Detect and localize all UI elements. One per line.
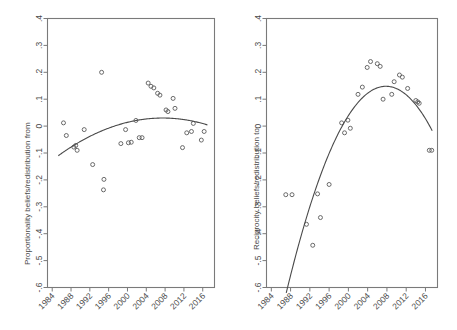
x-tick-label: 2000 [332,291,353,312]
y-tick-label: -.1 [34,148,44,158]
x-tick-label: 2004 [130,291,151,312]
x-tick-label: 1984 [36,291,57,312]
x-tick-label: 1992 [294,291,315,312]
x-tick-label: 1996 [93,291,114,312]
panel-right-svg: Reciprocity beliefs/redistribution to .4… [229,0,457,330]
y-tick-label: 0 [34,123,44,128]
y-axis-title-left: Proportionality beliefs/redistribution f… [23,122,32,265]
data-point [316,192,320,196]
panel-left: Proportionality beliefs/redistribution f… [0,0,228,330]
data-point [348,126,352,130]
y-tick-label: -.6 [253,282,263,292]
panel-left-x-axis: 198419881992199620002004200820122016 [36,288,207,312]
data-point [202,129,206,133]
data-point [129,140,133,144]
x-tick-label: 2012 [390,291,411,312]
y-tick-label: .4 [253,15,263,22]
data-point [61,121,65,125]
y-tick-label: -.5 [253,255,263,265]
plot-frame-left [48,19,215,288]
figure-canvas: Proportionality beliefs/redistribution f… [0,0,457,330]
data-point [318,216,322,220]
y-tick-label: -.6 [34,282,44,292]
y-tick-label: .4 [34,15,44,22]
x-tick-label: 2000 [111,291,132,312]
data-point [365,65,369,69]
data-point [311,243,315,247]
x-tick-label: 2008 [371,291,392,312]
x-tick-label: 1988 [55,291,76,312]
y-tick-label: .3 [34,42,44,49]
data-point [181,146,185,150]
data-point [189,129,193,133]
data-point [124,128,128,132]
data-point [100,70,104,74]
x-tick-label: 2016 [187,291,208,312]
panel-right: Reciprocity beliefs/redistribution to .4… [229,0,457,330]
panel-left-axis-title: Proportionality beliefs/redistribution f… [23,122,32,265]
fit-curve-right [286,86,432,293]
y-tick-label: -.3 [34,202,44,212]
x-tick-label: 2016 [409,291,430,312]
data-point [378,64,382,68]
data-point [199,138,203,142]
data-point [185,131,189,135]
panel-left-svg: Proportionality beliefs/redistribution f… [0,0,228,330]
y-tick-label: -.5 [34,255,44,265]
y-tick-label: -.2 [253,175,263,185]
y-tick-label: -.1 [253,148,263,158]
scatter-points-left [61,70,206,192]
y-tick-label: .2 [253,68,263,75]
data-point [82,128,86,132]
data-point [75,148,79,152]
data-point [171,96,175,100]
x-tick-label: 2004 [352,291,373,312]
x-tick-label: 1988 [275,291,296,312]
data-point [119,142,123,146]
data-point [91,163,95,167]
y-tick-label: -.3 [253,202,263,212]
data-point [140,136,144,140]
x-tick-label: 1984 [255,291,276,312]
data-point [327,182,331,186]
y-tick-label: .2 [34,68,44,75]
data-point [101,188,105,192]
data-point [64,134,68,138]
y-tick-label: .1 [253,95,263,102]
data-point [290,193,294,197]
data-point [392,80,396,84]
data-point [390,92,394,96]
x-tick-label: 2012 [168,291,189,312]
data-point [360,85,364,89]
panel-right-x-axis: 198419881992199620002004200820122016 [255,288,430,312]
data-point [343,131,347,135]
x-tick-label: 2008 [149,291,170,312]
plot-frame-right [267,19,438,288]
data-point [406,86,410,90]
panel-left-y-axis: .4.3.2.10-.1-.2-.3-.4-.5-.6 [34,15,48,293]
data-point [400,75,404,79]
fit-curve-left [58,118,207,156]
y-tick-label: .1 [34,95,44,102]
y-tick-label: 0 [253,123,263,128]
data-point [284,193,288,197]
data-point [173,106,177,110]
x-tick-label: 1992 [74,291,95,312]
data-point [102,177,106,181]
y-tick-label: -.4 [253,228,263,238]
y-tick-label: -.2 [34,175,44,185]
data-point [356,92,360,96]
x-tick-label: 1996 [313,291,334,312]
data-point [369,60,373,64]
y-tick-label: .3 [253,42,263,49]
data-point [381,97,385,101]
y-tick-label: -.4 [34,228,44,238]
